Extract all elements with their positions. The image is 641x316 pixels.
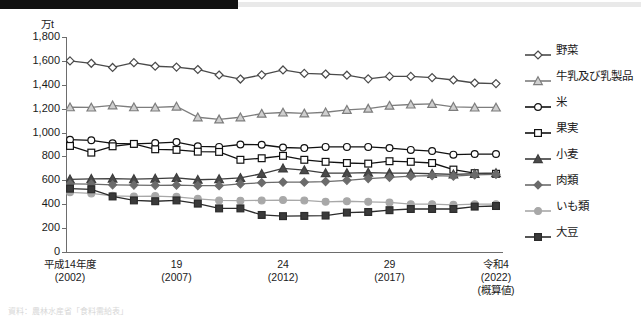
data-point-marker: [344, 160, 351, 167]
chart-legend: 野菜牛乳及び乳製品米果実小麦肉類いも類大豆: [524, 44, 641, 252]
data-point-marker: [280, 144, 287, 151]
data-point-marker: [365, 209, 372, 216]
y-axis-tick-label: 0: [4, 246, 60, 257]
data-point-marker: [407, 72, 415, 80]
data-point-marker: [237, 141, 244, 148]
data-point-marker: [108, 101, 117, 109]
header-rule: [238, 2, 641, 7]
data-point-marker: [216, 149, 223, 156]
legend-label: 米: [556, 96, 567, 109]
y-axis-tick-label: 1,200: [4, 103, 60, 114]
legend-marker-icon: [524, 231, 552, 243]
data-point-marker: [386, 72, 394, 80]
data-point-marker: [258, 141, 265, 148]
x-label-era: 19: [122, 258, 232, 271]
legend-item-いも類[interactable]: いも類: [524, 200, 641, 226]
data-point-marker: [343, 71, 351, 79]
data-point-marker: [407, 158, 414, 165]
x-axis-tick-label: 令和4(2022)(概算値): [441, 258, 551, 297]
legend-label: いも類: [556, 200, 589, 213]
data-point-marker: [194, 113, 203, 121]
legend-label: 野菜: [556, 44, 578, 57]
data-point-marker: [429, 160, 436, 167]
data-point-marker: [428, 172, 436, 180]
x-label-year: (2012): [228, 271, 338, 284]
x-axis-tick-label: 24(2012): [228, 258, 338, 284]
data-point-marker: [258, 155, 265, 162]
y-axis-tick-label: 400: [4, 198, 60, 209]
data-point-marker: [344, 198, 351, 205]
x-axis-tick-label: 19(2007): [122, 258, 232, 284]
data-point-marker: [130, 59, 138, 67]
y-axis-tick-label: 1,000: [4, 127, 60, 138]
data-point-marker: [535, 234, 542, 241]
data-point-marker: [280, 197, 287, 204]
data-point-marker: [492, 80, 500, 88]
data-point-marker: [450, 206, 457, 213]
data-point-marker: [322, 158, 329, 165]
legend-marker-icon: [524, 153, 552, 165]
data-point-marker: [258, 71, 266, 79]
chart-plot-area: [66, 37, 502, 252]
data-point-marker: [301, 213, 308, 220]
legend-marker-icon: [524, 205, 552, 217]
data-point-marker: [194, 200, 201, 207]
x-label-note: (概算値): [441, 284, 551, 297]
data-point-marker: [87, 59, 95, 67]
data-point-marker: [152, 198, 159, 205]
data-point-marker: [280, 213, 287, 220]
data-point-marker: [194, 148, 201, 155]
data-point-marker: [322, 178, 330, 186]
data-point-marker: [322, 143, 329, 150]
data-point-marker: [173, 146, 180, 153]
data-point-marker: [109, 193, 116, 200]
data-point-marker: [237, 197, 244, 204]
data-point-marker: [344, 143, 351, 150]
legend-item-果実[interactable]: 果実: [524, 122, 641, 148]
data-point-marker: [67, 185, 74, 192]
data-point-marker: [364, 75, 372, 83]
legend-item-小麦[interactable]: 小麦: [524, 148, 641, 174]
legend-item-肉類[interactable]: 肉類: [524, 174, 641, 200]
legend-item-大豆[interactable]: 大豆: [524, 226, 641, 252]
legend-item-牛乳及び乳製品[interactable]: 牛乳及び乳製品: [524, 70, 641, 96]
data-point-marker: [429, 148, 436, 155]
data-point-marker: [343, 176, 351, 184]
x-label-year: (2022): [441, 271, 551, 284]
legend-item-米[interactable]: 米: [524, 96, 641, 122]
data-point-marker: [301, 145, 308, 152]
data-point-marker: [429, 206, 436, 213]
data-point-marker: [407, 146, 414, 153]
legend-marker-icon: [524, 127, 552, 139]
redacted-header-bar: [0, 0, 238, 9]
y-axis-tick-label: 1,800: [4, 31, 60, 42]
data-point-marker: [194, 65, 202, 73]
data-point-marker: [322, 198, 329, 205]
series-牛乳及び乳製品: [66, 100, 500, 123]
data-point-marker: [493, 203, 500, 210]
x-label-year: (2007): [122, 271, 232, 284]
data-point-marker: [131, 197, 138, 204]
data-point-marker: [173, 181, 181, 189]
data-point-marker: [386, 207, 393, 214]
legend-marker-icon: [524, 75, 552, 87]
data-point-marker: [300, 69, 308, 77]
legend-label: 肉類: [556, 174, 578, 187]
data-point-marker: [173, 197, 180, 204]
data-point-marker: [300, 178, 308, 186]
legend-marker-icon: [524, 49, 552, 61]
data-point-marker: [450, 151, 457, 158]
data-point-marker: [173, 139, 180, 146]
data-point-marker: [386, 158, 393, 165]
legend-label: 小麦: [556, 148, 578, 161]
legend-item-野菜[interactable]: 野菜: [524, 44, 641, 70]
data-point-marker: [428, 74, 436, 82]
data-point-marker: [258, 212, 265, 219]
data-point-marker: [216, 197, 223, 204]
series-野菜: [66, 57, 500, 88]
data-point-marker: [67, 143, 74, 150]
data-point-marker: [365, 198, 372, 205]
data-point-marker: [301, 156, 308, 163]
data-point-marker: [237, 205, 244, 212]
data-point-marker: [301, 197, 308, 204]
